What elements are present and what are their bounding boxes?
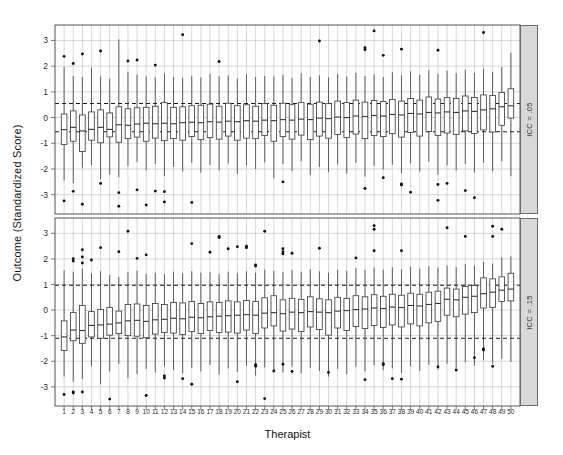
outlier-point (145, 394, 148, 397)
outlier-point (154, 64, 157, 67)
outlier-point (382, 54, 385, 57)
y-tick-label: 0 (43, 305, 48, 315)
box-iqr (98, 310, 104, 339)
outlier-point (400, 378, 403, 381)
x-tick-label: 2 (71, 408, 75, 415)
box-iqr (380, 296, 386, 327)
box-iqr (499, 92, 505, 125)
outlier-point (117, 250, 120, 253)
box-iqr (143, 107, 149, 141)
y-tick-label: 2 (43, 61, 48, 71)
box-iqr (80, 115, 86, 152)
x-tick-label: 6 (108, 408, 112, 415)
outlier-point (117, 205, 120, 208)
y-tick-label: 3 (43, 228, 48, 238)
x-tick-label: 10 (143, 408, 150, 415)
x-tick-label: 22 (252, 408, 259, 415)
outlier-point (63, 55, 66, 58)
box-iqr (317, 299, 323, 330)
box-iqr (335, 101, 341, 134)
x-tick-label: 9 (135, 408, 139, 415)
outlier-point (281, 180, 284, 183)
x-tick-label: 36 (380, 408, 387, 415)
panel-strip-top: ICC = .05 (520, 25, 538, 214)
x-tick-label: 21 (243, 408, 250, 415)
x-tick-label: 34 (361, 408, 368, 415)
outlier-point (446, 226, 449, 229)
x-tick-label: 49 (498, 408, 505, 415)
x-tick-label: 42 (434, 408, 441, 415)
box-iqr (326, 300, 332, 335)
x-tick-label: 44 (453, 408, 460, 415)
outlier-point (181, 377, 184, 380)
box-iqr (371, 101, 377, 136)
outlier-point (190, 383, 193, 386)
x-tick-label: 33 (352, 408, 359, 415)
outlier-point (464, 235, 467, 238)
outlier-point (500, 228, 503, 231)
outlier-point (72, 62, 75, 65)
x-tick-label: 17 (206, 408, 213, 415)
outlier-point (126, 60, 129, 63)
outlier-point (446, 182, 449, 185)
box-iqr (162, 103, 168, 141)
outlier-point (281, 247, 284, 250)
y-tick-label: -3 (40, 382, 48, 392)
box-iqr (125, 109, 131, 139)
outlier-point (99, 50, 102, 53)
box-iqr (225, 103, 231, 136)
x-tick-label: 47 (480, 408, 487, 415)
outlier-point (227, 247, 230, 250)
x-tick-label: 8 (126, 408, 130, 415)
outlier-point (81, 255, 84, 258)
panel-strip-top-label: ICC = .05 (525, 102, 534, 137)
x-tick-label: 32 (343, 408, 350, 415)
box-iqr (390, 294, 396, 325)
outlier-point (464, 189, 467, 192)
x-tick-label: 50 (507, 408, 514, 415)
x-tick-label: 24 (270, 408, 277, 415)
x-tick-label: 37 (389, 408, 396, 415)
box-iqr (362, 102, 368, 139)
outlier-point (364, 378, 367, 381)
x-tick-label: 28 (307, 408, 314, 415)
x-tick-label: 16 (197, 408, 204, 415)
box-iqr (435, 291, 441, 321)
box-iqr (399, 295, 405, 327)
outlier-point (81, 262, 84, 265)
outlier-point (491, 225, 494, 228)
box-iqr (353, 100, 359, 134)
box-iqr (180, 107, 186, 140)
outlier-point (81, 390, 84, 393)
outlier-point (400, 183, 403, 186)
box-iqr (162, 304, 168, 332)
outlier-point (72, 392, 75, 395)
outlier-point (473, 196, 476, 199)
box-iqr (353, 296, 359, 327)
outlier-point (136, 188, 139, 191)
outlier-point (236, 380, 239, 383)
y-tick-label: -3 (40, 190, 48, 200)
outlier-point (263, 230, 266, 233)
box-iqr (481, 95, 487, 130)
outlier-point (391, 377, 394, 380)
box-iqr (61, 321, 67, 351)
y-tick-label: -1 (40, 331, 48, 341)
outlier-point (63, 393, 66, 396)
box-iqr (481, 278, 487, 308)
box-iqr (472, 286, 478, 313)
y-tick-label: 0 (43, 113, 48, 123)
x-tick-label: 46 (471, 408, 478, 415)
y-tick-label: -2 (40, 164, 48, 174)
x-tick-label: 48 (489, 408, 496, 415)
outlier-point (218, 236, 221, 239)
x-tick-label: 45 (462, 408, 469, 415)
outlier-point (145, 204, 148, 207)
box-iqr (298, 299, 304, 331)
box-iqr (89, 312, 95, 337)
x-tick-label: 20 (234, 408, 241, 415)
box-iqr (453, 99, 459, 135)
outlier-point (436, 365, 439, 368)
outlier-point (400, 48, 403, 51)
outlier-point (482, 31, 485, 34)
